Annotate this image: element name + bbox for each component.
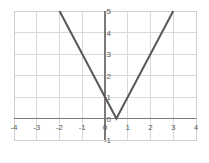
- x-tick-label: -2: [56, 123, 63, 132]
- y-tick-label: 1: [99, 93, 111, 102]
- series-line-0: [60, 11, 174, 119]
- x-tick-label: 1: [126, 123, 130, 132]
- x-tick-label: -4: [10, 123, 17, 132]
- y-tick-label: 5: [99, 7, 111, 16]
- x-tick-label: 4: [194, 123, 198, 132]
- y-tick-label: 4: [99, 28, 111, 37]
- x-tick-label: -3: [33, 123, 40, 132]
- x-tick-label: 2: [148, 123, 152, 132]
- x-tick-label: -1: [79, 123, 86, 132]
- x-tick-label: 3: [171, 123, 175, 132]
- y-tick-label: 3: [99, 50, 111, 59]
- y-tick-label: -1: [99, 136, 111, 145]
- y-tick-label: 2: [99, 71, 111, 80]
- data-series-group: [60, 11, 174, 119]
- absolute-value-function-chart: -4-3-2-101234 -1012345: [0, 0, 209, 163]
- y-tick-label: 0: [99, 114, 111, 123]
- x-tick-label: 0: [103, 123, 107, 132]
